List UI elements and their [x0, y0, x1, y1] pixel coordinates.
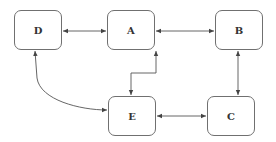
- node-b: B: [215, 10, 263, 50]
- edge-d-e: [35, 51, 107, 110]
- node-e-label: E: [128, 111, 136, 122]
- node-d-label: D: [34, 25, 43, 36]
- node-b-label: B: [235, 25, 243, 36]
- node-c-label: C: [227, 111, 235, 122]
- node-c: C: [207, 96, 255, 136]
- node-a: A: [107, 10, 155, 50]
- edge-a-e: [131, 51, 156, 95]
- node-d: D: [14, 10, 62, 50]
- node-e: E: [108, 96, 156, 136]
- node-a-label: A: [127, 25, 135, 36]
